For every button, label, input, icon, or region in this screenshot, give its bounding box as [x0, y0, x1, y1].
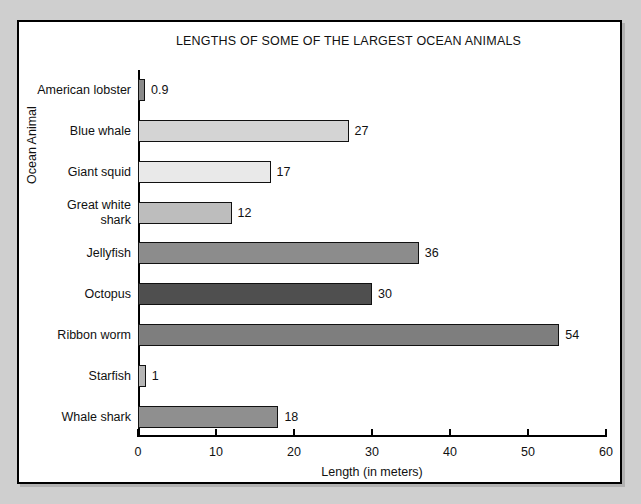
bar-value-label: 27: [355, 124, 369, 138]
bar-rows: American lobster0.9Blue whale27Giant squ…: [138, 70, 606, 437]
x-tick: [293, 429, 295, 437]
bar-value-label: 18: [284, 410, 298, 424]
x-tick-label: 40: [443, 445, 457, 459]
bar: [138, 161, 271, 183]
bar-value-label: 54: [565, 328, 579, 342]
x-tick-label: 30: [365, 445, 379, 459]
category-label: Whale shark: [11, 409, 131, 424]
bar-value-label: 17: [277, 165, 291, 179]
chart-screenshot: LENGTHS OF SOME OF THE LARGEST OCEAN ANI…: [0, 0, 641, 504]
bar-row: Starfish1: [138, 355, 606, 396]
bar-value-label: 30: [378, 287, 392, 301]
x-tick-label: 50: [521, 445, 535, 459]
bar-value-label: 0.9: [151, 83, 168, 97]
bar: [138, 283, 372, 305]
bar-row: Giant squid17: [138, 152, 606, 193]
category-label: Ribbon worm: [11, 328, 131, 343]
bar-row: Great white shark12: [138, 192, 606, 233]
chart-card: LENGTHS OF SOME OF THE LARGEST OCEAN ANI…: [17, 20, 622, 484]
x-tick-label: 20: [287, 445, 301, 459]
bar-row: American lobster0.9: [138, 70, 606, 111]
bar: [138, 79, 145, 101]
category-label: Jellyfish: [11, 246, 131, 261]
x-tick-label: 60: [599, 445, 613, 459]
bar-row: Octopus30: [138, 274, 606, 315]
category-label: Giant squid: [11, 164, 131, 179]
x-tick-label: 10: [209, 445, 223, 459]
x-tick: [605, 429, 607, 437]
bar: [138, 365, 146, 387]
bar: [138, 324, 559, 346]
x-tick: [371, 429, 373, 437]
plot-area: American lobster0.9Blue whale27Giant squ…: [138, 70, 606, 437]
bar: [138, 406, 278, 428]
bar-row: Jellyfish36: [138, 233, 606, 274]
chart-title: LENGTHS OF SOME OF THE LARGEST OCEAN ANI…: [19, 34, 620, 48]
bar: [138, 242, 419, 264]
x-tick: [449, 429, 451, 437]
x-tick: [215, 429, 217, 437]
bar: [138, 202, 232, 224]
category-label: American lobster: [11, 83, 131, 98]
bar: [138, 120, 349, 142]
x-tick-label: 0: [135, 445, 142, 459]
category-label: Octopus: [11, 287, 131, 302]
x-tick: [527, 429, 529, 437]
bar-value-label: 1: [152, 369, 159, 383]
bar-row: Ribbon worm54: [138, 315, 606, 356]
x-axis-title: Length (in meters): [138, 465, 606, 479]
bar-value-label: 12: [238, 206, 252, 220]
bar-row: Blue whale27: [138, 111, 606, 152]
category-label: Starfish: [11, 368, 131, 383]
category-label: Great white shark: [11, 198, 131, 228]
category-label: Blue whale: [11, 124, 131, 139]
bar-value-label: 36: [425, 246, 439, 260]
x-tick: [137, 429, 139, 437]
